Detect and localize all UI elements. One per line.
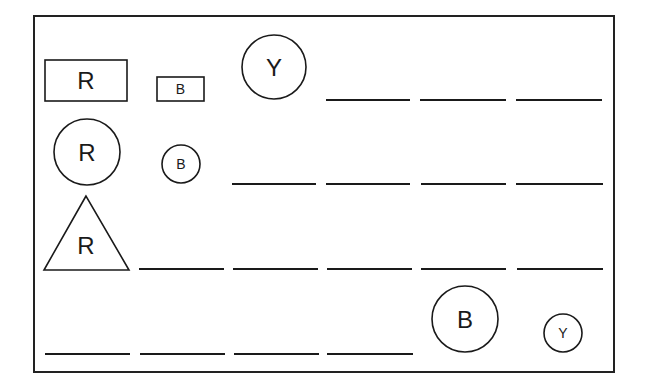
shape-label: B xyxy=(457,306,473,333)
diagram-frame xyxy=(34,16,614,372)
shape-circle-y-small: Y xyxy=(544,314,582,352)
shape-label: R xyxy=(77,67,94,94)
shape-label: Y xyxy=(266,54,282,81)
pattern-diagram: RBYRBRBY xyxy=(0,0,645,387)
answer-blanks xyxy=(45,100,603,354)
shape-rect-b-small: B xyxy=(157,77,204,101)
shape-circle-b-large: B xyxy=(432,286,498,352)
shape-circle-b-small: B xyxy=(162,145,200,183)
shape-circle-r-large: R xyxy=(54,119,120,185)
shape-rect-r-large: R xyxy=(45,60,127,101)
shape-circle-y-large: Y xyxy=(242,35,306,99)
shape-label: Y xyxy=(558,325,568,341)
shape-label: B xyxy=(176,81,185,97)
shape-label: R xyxy=(77,232,94,259)
shape-sequence: RBYRBRBY xyxy=(44,35,582,352)
shape-label: R xyxy=(78,139,95,166)
shape-label: B xyxy=(176,156,185,172)
shape-triangle-r-large: R xyxy=(44,196,129,270)
